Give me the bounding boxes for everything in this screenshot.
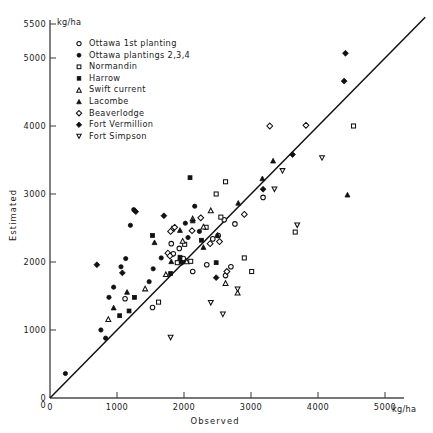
data-point (119, 270, 125, 276)
legend-item-label: Fort Vermillion (89, 119, 153, 129)
legend-marker-icon (77, 41, 81, 45)
legend-item-7[interactable]: Fort Vermillion (76, 119, 153, 129)
series-2 (157, 124, 356, 304)
data-point (103, 336, 107, 340)
data-point (198, 215, 204, 221)
legend-item-0[interactable]: Ottawa 1st planting (77, 38, 177, 48)
legend-item-8[interactable]: Fort Simpson (77, 131, 147, 141)
legend-item-1[interactable]: Ottawa plantings 2,3,4 (77, 50, 190, 60)
data-point (351, 124, 355, 128)
scatter-plot-figure: 0100020003000400050005500 01000200030004… (0, 0, 433, 433)
legend-item-label: Harrow (89, 73, 120, 83)
data-point (151, 234, 155, 238)
y-tick-label: 2000 (24, 257, 46, 267)
series-5 (111, 158, 350, 310)
x-axis-ticks: 010002000300040005000 (47, 392, 396, 412)
legend-item-label: Ottawa 1st planting (89, 38, 177, 48)
legend-marker-icon (77, 53, 81, 57)
data-point (106, 317, 111, 322)
data-point (320, 156, 325, 161)
data-point (214, 192, 218, 196)
data-point (295, 223, 300, 228)
legend-item-label: Swift current (89, 84, 146, 94)
y-tick-label: 4000 (24, 121, 46, 131)
data-point (63, 371, 67, 375)
data-point (236, 201, 241, 206)
legend-item-label: Fort Simpson (89, 131, 147, 141)
data-point (201, 245, 206, 250)
data-point (241, 211, 247, 217)
legend-marker-icon (76, 111, 81, 116)
data-point (189, 228, 195, 234)
x-unit-label: kg/ha (392, 404, 416, 414)
data-point (99, 328, 103, 332)
x-tick-label: 0 (47, 402, 53, 412)
data-point (208, 208, 213, 213)
legend-item-5[interactable]: Lacombe (77, 96, 129, 106)
legend-item-label: Beaverlodge (89, 108, 145, 118)
data-point (180, 239, 185, 244)
data-point (124, 256, 128, 260)
legend-item-2[interactable]: Normandin (77, 61, 137, 71)
data-point (223, 281, 228, 286)
data-point (107, 295, 111, 299)
data-point (220, 312, 225, 317)
data-point (193, 204, 197, 208)
legend-item-label: Normandin (89, 61, 137, 71)
legend-marker-icon (77, 88, 82, 92)
data-point (343, 50, 349, 56)
data-point (189, 259, 193, 263)
x-axis-title: Observed (190, 416, 239, 426)
series-6 (165, 122, 309, 274)
data-point (152, 240, 157, 245)
data-point (204, 262, 209, 267)
data-point (224, 180, 228, 184)
legend-item-6[interactable]: Beaverlodge (76, 108, 144, 118)
data-point (197, 229, 201, 233)
data-point (123, 296, 128, 301)
data-point (168, 335, 173, 340)
origin-label: 0 (40, 400, 46, 410)
data-point (169, 259, 174, 264)
data-point (341, 78, 347, 84)
y-tick-label: 5500 (24, 19, 46, 29)
data-point (211, 237, 216, 242)
legend-marker-icon (77, 65, 81, 69)
legend-item-label: Ottawa plantings 2,3,4 (89, 50, 190, 60)
y-tick-label: 3000 (24, 189, 46, 199)
data-point (177, 246, 182, 251)
data-point (161, 213, 167, 219)
data-point (150, 305, 155, 310)
data-point (163, 272, 168, 277)
data-point (112, 285, 116, 289)
data-point (190, 269, 195, 274)
data-point (128, 223, 132, 227)
legend-item-4[interactable]: Swift current (77, 84, 147, 94)
data-point (293, 230, 297, 234)
data-point (127, 309, 131, 313)
data-point (260, 176, 265, 181)
data-point (132, 295, 136, 299)
legend-item-3[interactable]: Harrow (77, 73, 120, 83)
y-tick-label: 5000 (24, 53, 46, 63)
data-point (345, 192, 350, 197)
legend-marker-icon (77, 134, 81, 138)
data-point (178, 228, 183, 233)
data-point (118, 314, 122, 318)
y-axis-ticks: 0100020003000400050005500 (24, 19, 56, 403)
data-point (242, 256, 246, 260)
data-point (219, 215, 223, 219)
y-axis-title: Estimated (8, 189, 18, 241)
data-point (151, 267, 155, 271)
data-point (217, 239, 223, 245)
data-point (229, 264, 234, 269)
data-point (157, 300, 161, 304)
data-point (178, 255, 182, 259)
y-tick-label: 1000 (24, 325, 46, 335)
data-point (272, 187, 277, 192)
data-point (250, 270, 254, 274)
data-point (159, 256, 163, 260)
legend-marker-icon (76, 122, 81, 127)
data-point (290, 152, 296, 158)
data-point (271, 158, 276, 163)
